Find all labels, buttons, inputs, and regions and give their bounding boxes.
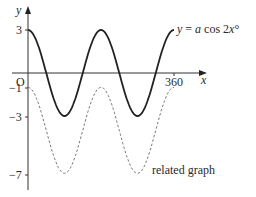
- chart: y x O 3 −1 −3 −7 360 y = a cos 2x° relat…: [0, 0, 256, 197]
- tick-label-3: 3: [16, 23, 22, 37]
- tick-label-m7: −7: [9, 168, 22, 182]
- tick-label-m1: −1: [9, 81, 22, 95]
- related-graph-curve: [28, 87, 174, 173]
- curve-label: y = a cos 2x°: [176, 22, 239, 36]
- curve-label-cos: cos 2: [201, 22, 229, 36]
- x-axis-label: x: [200, 73, 207, 87]
- tick-label-m3: −3: [9, 110, 22, 124]
- y-axis-label: y: [15, 3, 22, 17]
- tick-label-360: 360: [165, 75, 183, 89]
- curve-label-deg: °: [234, 22, 239, 36]
- y-axis-arrow-icon: [25, 6, 31, 14]
- related-graph-label: related graph: [152, 163, 215, 177]
- curve-label-eq: =: [182, 22, 195, 36]
